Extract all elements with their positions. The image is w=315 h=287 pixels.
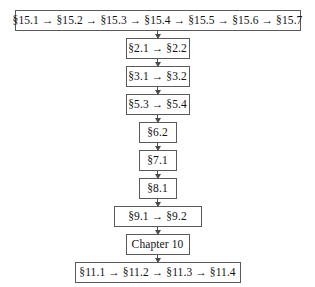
flow-node-chapter-3: §3.1 → §3.2: [126, 66, 190, 87]
arrow-down-icon-5: [157, 143, 158, 150]
flow-node-chapter-2: §2.1 → §2.2: [126, 38, 190, 59]
arrow-down-icon-8: [157, 227, 158, 234]
flow-node-chapter-10: Chapter 10: [126, 234, 190, 255]
arrow-down-icon-1: [157, 31, 158, 38]
flow-node-chapter-9: §9.1 → §9.2: [114, 206, 202, 227]
flow-node-chapter-8: §8.1: [139, 178, 177, 199]
flow-node-chapter-7: §7.1: [139, 150, 177, 171]
flow-node-chapter-11: §11.1 → §11.2 → §11.3 → §11.4: [75, 262, 241, 283]
flow-node-chapter-15: §15.1 → §15.2 → §15.3 → §15.4 → §15.5 → …: [15, 10, 301, 31]
arrow-down-icon-2: [157, 59, 158, 66]
arrow-down-icon-4: [157, 115, 158, 122]
arrow-down-icon-6: [157, 171, 158, 178]
arrow-down-icon-3: [157, 87, 158, 94]
flow-node-chapter-5: §5.3 → §5.4: [126, 94, 190, 115]
flow-node-chapter-6: §6.2: [139, 122, 177, 143]
arrow-down-icon-7: [157, 199, 158, 206]
flowchart-diagram: §15.1 → §15.2 → §15.3 → §15.4 → §15.5 → …: [0, 0, 315, 287]
arrow-down-icon-9: [157, 255, 158, 262]
